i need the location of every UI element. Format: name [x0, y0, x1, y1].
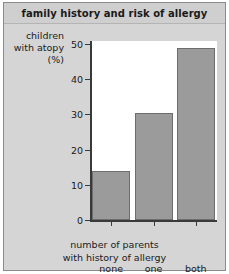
x-tick-label-one: one — [145, 263, 163, 274]
x-tick-one — [154, 222, 155, 226]
x-tick-label-none: none — [99, 263, 123, 274]
y-tick-0 — [85, 220, 90, 221]
chart-title-band: family history and risk of allergy — [4, 3, 225, 24]
y-axis-label-line-3: (%) — [6, 54, 64, 66]
chart-panel: family history and risk of allergy child… — [3, 2, 226, 271]
x-tick-both — [196, 222, 197, 226]
y-tick-label-20: 20 — [71, 144, 83, 155]
bar-one — [135, 113, 173, 220]
bar-none — [92, 171, 130, 220]
chart-figure: family history and risk of allergy child… — [0, 0, 229, 274]
x-axis-label-line-2: with history of allergy — [4, 252, 225, 265]
bar-both — [177, 48, 215, 220]
x-axis-label: number of parents with history of allerg… — [4, 239, 225, 264]
y-axis-label-line-2: with atopy — [6, 42, 64, 54]
y-axis-label-line-1: children — [6, 30, 64, 42]
y-tick-label-0: 0 — [77, 215, 83, 226]
y-tick-50 — [85, 44, 90, 45]
y-tick-10 — [85, 185, 90, 186]
x-axis-label-line-1: number of parents — [4, 239, 225, 252]
y-tick-label-10: 10 — [71, 179, 83, 190]
y-tick-label-30: 30 — [71, 109, 83, 120]
x-tick-none — [111, 222, 112, 226]
y-tick-label-40: 40 — [71, 74, 83, 85]
y-tick-20 — [85, 150, 90, 151]
y-axis-label: children with atopy (%) — [6, 30, 64, 66]
y-tick-30 — [85, 114, 90, 115]
plot-area: 01020304050 noneoneboth — [90, 41, 217, 222]
chart-title: family history and risk of allergy — [22, 8, 208, 19]
y-tick-40 — [85, 79, 90, 80]
y-tick-label-50: 50 — [71, 39, 83, 50]
x-tick-label-both: both — [185, 263, 207, 274]
